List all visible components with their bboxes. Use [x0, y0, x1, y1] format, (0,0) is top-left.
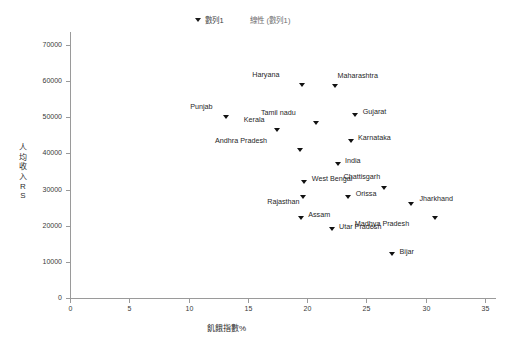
data-point-marker[interactable]: [299, 83, 305, 87]
data-point-label: Utar Pradesh: [339, 222, 381, 231]
data-point-marker[interactable]: [297, 148, 303, 152]
data-point-marker[interactable]: [332, 84, 338, 88]
legend-label-series: 數列1: [205, 14, 224, 25]
x-tick-label: 25: [357, 305, 377, 312]
data-point-label: Assam: [308, 210, 330, 219]
data-point-marker[interactable]: [223, 115, 229, 119]
y-tick-label: 50000: [43, 113, 62, 120]
y-tick-label: 40000: [43, 149, 62, 156]
data-point-marker[interactable]: [389, 252, 395, 256]
data-point-label: Gujarat: [363, 107, 387, 116]
data-point-label: Maharashtra: [338, 71, 378, 80]
data-point-label: Jharkhand: [419, 194, 453, 203]
data-point-marker[interactable]: [301, 180, 307, 184]
x-tick-label: 30: [417, 305, 437, 312]
data-point-marker[interactable]: [348, 139, 354, 143]
plot-axes: [0, 0, 513, 353]
data-point-marker[interactable]: [345, 195, 351, 199]
data-point-label: India: [345, 156, 361, 165]
data-point-marker[interactable]: [329, 227, 335, 231]
y-tick-label: 70000: [43, 41, 62, 48]
x-tick-label: 10: [180, 305, 200, 312]
y-axis-title-text: 人均收入RS: [16, 143, 30, 201]
data-point-label: Punjab: [190, 102, 212, 111]
data-point-marker[interactable]: [432, 216, 438, 220]
x-tick-label: 5: [120, 305, 140, 312]
data-point-label: Tamil nadu: [261, 108, 296, 117]
x-tick-label: 20: [298, 305, 318, 312]
chart-legend: 數列1 線性 (數列1): [195, 14, 291, 25]
data-point-label: Kerala: [244, 115, 265, 124]
y-tick-label: 30000: [43, 186, 62, 193]
data-point-label: Bijar: [400, 247, 414, 256]
data-point-marker[interactable]: [313, 121, 319, 125]
y-tick-label: 20000: [43, 222, 62, 229]
y-tick-label: 10000: [43, 258, 62, 265]
data-point-marker[interactable]: [300, 195, 306, 199]
data-point-marker[interactable]: [274, 128, 280, 132]
data-point-marker[interactable]: [298, 216, 304, 220]
data-point-marker[interactable]: [381, 186, 387, 190]
x-axis-title-text: 飢餓指數%: [207, 324, 246, 333]
triangle-down-icon: [195, 18, 201, 22]
x-axis-title: 飢餓指數%: [0, 322, 513, 333]
legend-label-trendline: 線性 (數列1): [250, 14, 291, 25]
x-tick-label: 15: [239, 305, 259, 312]
data-point-marker[interactable]: [408, 202, 414, 206]
y-tick-label: 60000: [43, 77, 62, 84]
legend-entry-trendline[interactable]: 線性 (數列1): [250, 14, 291, 25]
data-point-label: Andhra Pradesh: [215, 136, 267, 145]
data-point-marker[interactable]: [352, 113, 358, 117]
y-tick-label: 0: [58, 294, 62, 301]
data-point-marker[interactable]: [335, 162, 341, 166]
data-point-label: Orissa: [356, 189, 377, 198]
y-axis-title: 人均收入RS: [16, 143, 30, 201]
scatter-chart: 數列1 線性 (數列1) 人均收入RS 飢餓指數% 01000020000300…: [0, 0, 513, 353]
data-point-label: Chattisgarh: [343, 172, 380, 181]
data-point-label: Rajasthan: [267, 197, 299, 206]
data-point-label: Haryana: [252, 70, 279, 79]
x-tick-label: 0: [61, 305, 81, 312]
legend-entry-series[interactable]: 數列1: [195, 14, 224, 25]
data-point-label: Karnataka: [358, 133, 391, 142]
x-tick-label: 35: [476, 305, 496, 312]
